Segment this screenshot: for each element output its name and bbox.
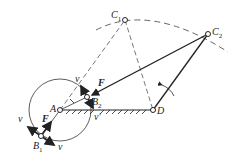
label-D: D <box>157 106 164 116</box>
label-v-B2: v <box>75 74 79 84</box>
joint-B2 <box>85 95 90 100</box>
coupler-C2B2 <box>92 34 208 95</box>
label-A: A <box>50 104 56 114</box>
label-force-B1: F <box>42 114 49 124</box>
label-C1: C1 <box>111 10 121 23</box>
label-C2: C2 <box>212 27 222 40</box>
joint-C2 <box>206 32 211 37</box>
label-force-B2: F <box>98 78 105 88</box>
label-v-B1-right: v <box>58 142 62 152</box>
joint-B1 <box>39 134 44 139</box>
angle-mark <box>70 99 74 103</box>
linkage-diagram: A D C1 C2 B1 B2 F F v v′ v v <box>0 0 243 164</box>
label-B2: B2 <box>92 97 102 110</box>
rocker-C2D <box>153 34 208 110</box>
joint-D <box>151 108 156 113</box>
joint-A <box>58 108 63 113</box>
label-v-B1-left: v <box>18 114 22 124</box>
label-B1: B1 <box>33 141 43 154</box>
label-v-prime: v′ <box>94 112 101 122</box>
crank-AB2 <box>60 97 87 110</box>
joint-C1 <box>123 18 128 23</box>
